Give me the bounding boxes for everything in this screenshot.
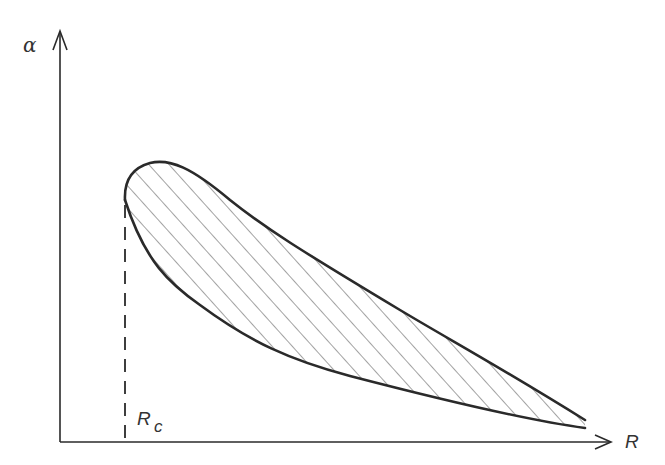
critical-r-label: R (137, 408, 151, 429)
stability-region-diagram: α R R c (0, 0, 665, 465)
hatched-region (125, 162, 585, 428)
x-axis-label: R (625, 431, 639, 452)
y-axis-label: α (23, 33, 37, 57)
critical-r-subscript: c (154, 417, 163, 436)
